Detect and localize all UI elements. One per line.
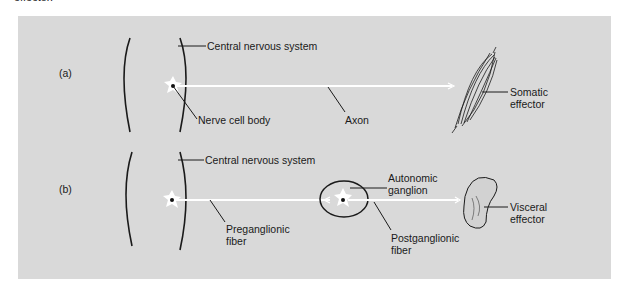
cns-label-b: Central nervous system: [205, 154, 315, 166]
somatic-effector-muscle-icon: [452, 47, 497, 133]
autonomic-ganglion-label: Autonomic ganglion: [388, 172, 438, 196]
visceral-effector-label: Visceral effector: [510, 201, 547, 225]
panel-b-tag: (b): [59, 183, 72, 195]
cns-boundary-left-a: [124, 38, 130, 132]
visceral-effector-gland-icon: [464, 177, 497, 228]
ganglion-cell-body-icon: [334, 188, 352, 207]
cns-boundary-left-b: [126, 152, 132, 246]
cns-label-a: Central nervous system: [207, 40, 317, 52]
panel-a-tag: (a): [59, 67, 72, 79]
preganglionic-fiber-label: Preganglionic fiber: [226, 223, 290, 247]
postganglionic-fiber-label: Postganglionic fiber: [391, 232, 459, 256]
somatic-effector-label: Somatic effector: [510, 86, 548, 110]
nerve-cell-body-label: Nerve cell body: [198, 114, 270, 126]
axon-label: Axon: [345, 114, 369, 126]
